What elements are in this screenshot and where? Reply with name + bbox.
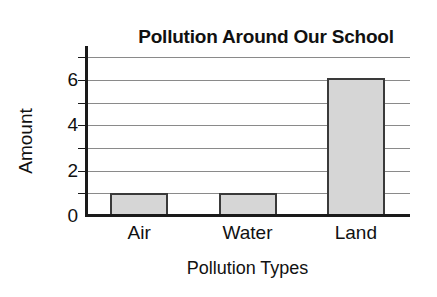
x-axis-tick-label: Land (335, 222, 377, 244)
bar (327, 78, 385, 216)
bar (219, 193, 277, 216)
plot-area (85, 46, 410, 216)
y-axis-title: Amount (15, 76, 37, 206)
bar (110, 193, 168, 216)
y-axis-tick (78, 103, 85, 104)
bar-chart-figure: Pollution Around Our School Amount 0246 … (0, 0, 437, 297)
chart-title: Pollution Around Our School (96, 26, 436, 48)
x-axis-line (85, 214, 410, 217)
gridline (85, 57, 410, 58)
y-axis-tick (78, 171, 85, 172)
y-axis-line (85, 46, 88, 217)
y-axis-tick-label: 6 (52, 69, 78, 91)
x-axis-tick-label: Water (223, 222, 273, 244)
x-axis-title: Pollution Types (85, 258, 410, 279)
x-axis-tick-label: Air (128, 222, 151, 244)
x-axis-category-labels: AirWaterLand (85, 222, 410, 248)
y-axis-tick-label: 4 (52, 114, 78, 136)
y-axis-tick (78, 193, 85, 194)
y-axis-tick-label: 2 (52, 160, 78, 182)
y-axis-tick (78, 57, 85, 58)
y-axis-tick (78, 80, 85, 81)
y-axis-tick-labels: 0246 (48, 46, 78, 216)
y-axis-tick (78, 125, 85, 126)
y-axis-tick (78, 148, 85, 149)
y-axis-tick-label: 0 (52, 205, 78, 227)
